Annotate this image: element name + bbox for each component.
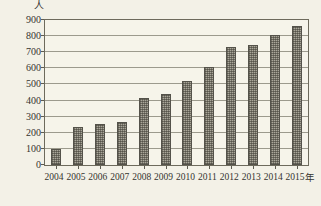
y-axis-tick-label: 500 <box>1 79 41 89</box>
x-axis-tick-mark <box>297 166 298 169</box>
bar <box>73 127 83 165</box>
bar-slot <box>242 20 264 165</box>
bar-slot <box>220 20 242 165</box>
y-axis-tick-label: 700 <box>1 47 41 57</box>
bar <box>117 122 127 165</box>
y-axis-tick-label: 100 <box>1 144 41 154</box>
x-axis-ticks <box>45 166 308 170</box>
bar-slot <box>45 20 67 165</box>
bar <box>248 45 258 165</box>
x-axis-tick-mark <box>78 166 79 169</box>
bar-slot <box>155 20 177 165</box>
x-axis-labels: 2004200520062007200820092010201120122013… <box>45 172 321 188</box>
bar <box>270 35 280 166</box>
bar <box>204 67 214 165</box>
x-axis-tick-mark <box>144 166 145 169</box>
y-axis-labels: 9008007006005004003002001000 <box>0 0 41 206</box>
y-axis-tick-label: 400 <box>1 96 41 106</box>
x-axis-unit-label: 年 <box>305 172 315 183</box>
bar-slot <box>89 20 111 165</box>
y-axis-tick-label: 300 <box>1 112 41 122</box>
bar-slot <box>286 20 308 165</box>
bar-slot <box>177 20 199 165</box>
bar-slot <box>198 20 220 165</box>
bar-series <box>45 20 308 165</box>
x-axis-tick-mark <box>231 166 232 169</box>
bar <box>139 98 149 165</box>
y-axis-tick-label: 900 <box>1 15 41 25</box>
x-axis-tick-mark <box>122 166 123 169</box>
bar-chart: 人 9008007006005004003002001000 200420052… <box>0 0 321 206</box>
x-axis-tick-mark <box>253 166 254 169</box>
bar <box>51 149 61 165</box>
bar <box>95 124 105 165</box>
x-axis-tick-mark <box>187 166 188 169</box>
x-axis-tick-mark <box>209 166 210 169</box>
y-axis-tick-label: 200 <box>1 128 41 138</box>
y-axis-tick-label: 800 <box>1 31 41 41</box>
bar <box>292 26 302 165</box>
bar <box>161 94 171 165</box>
bar-slot <box>264 20 286 165</box>
bar-slot <box>133 20 155 165</box>
y-axis-tick-label: 600 <box>1 63 41 73</box>
bar <box>182 81 192 165</box>
y-axis-tick-label: 0 <box>1 160 41 170</box>
bar-slot <box>111 20 133 165</box>
x-axis-tick-mark <box>275 166 276 169</box>
bar-slot <box>67 20 89 165</box>
x-axis-tick-mark <box>166 166 167 169</box>
x-axis-tick-mark <box>100 166 101 169</box>
bar <box>226 47 236 165</box>
x-axis-tick-mark <box>56 166 57 169</box>
